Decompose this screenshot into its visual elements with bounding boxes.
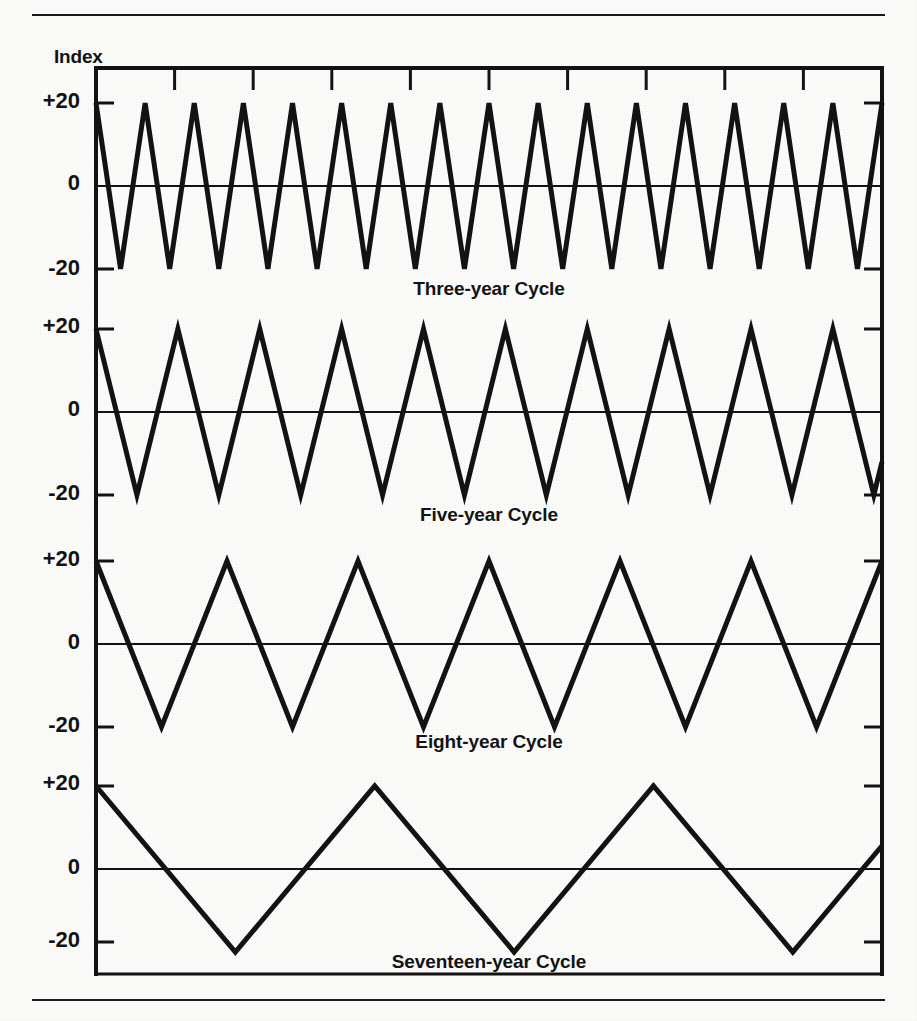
cycle-chart-figure: Index +20 0 -20 +20 0 -20 +20 0 -20 +20 … <box>0 0 917 1021</box>
x-axis-ticks <box>94 68 884 974</box>
wave-series-group <box>96 103 882 952</box>
zero-lines <box>96 186 882 869</box>
plot-frame <box>94 66 884 976</box>
plot-area <box>0 0 917 1021</box>
